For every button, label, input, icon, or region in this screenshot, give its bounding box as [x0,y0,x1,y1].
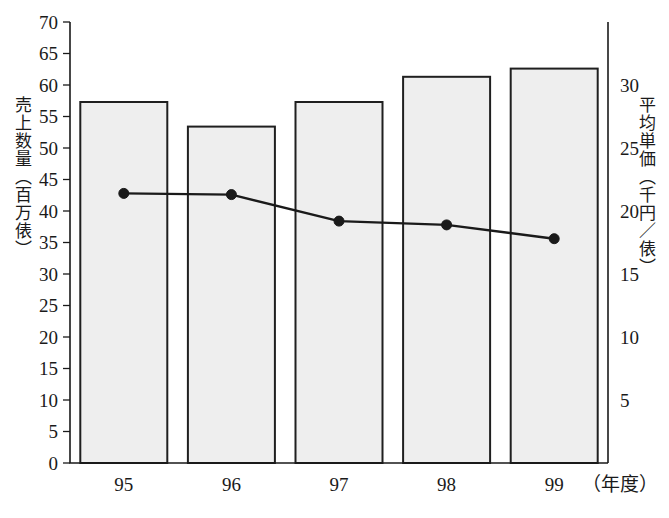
left-tick-label: 20 [39,327,58,348]
category-label-98: 98 [437,474,456,495]
category-label-95: 95 [114,474,133,495]
line-marker-95 [119,188,129,198]
left-tick-label: 45 [39,169,58,190]
left-tick-label: 50 [39,138,58,159]
category-label-96: 96 [222,474,241,495]
line-marker-96 [226,190,236,200]
right-tick-label: 10 [620,327,639,348]
bar-98 [403,77,490,463]
line-marker-98 [442,220,452,230]
right-tick-label: 5 [620,390,630,411]
right-tick-label: 15 [620,264,639,285]
left-tick-label: 55 [39,106,58,127]
left-tick-label: 0 [49,453,59,474]
bar-series-group [80,69,597,463]
left-tick-label: 30 [39,264,58,285]
category-label-99: 99 [545,474,564,495]
x-axis-unit-label: （年度） [582,474,658,495]
left-tick-label: 70 [39,12,58,33]
left-axis-ticks: 0510152025303540455055606570 [39,12,70,474]
chart-plot: 0510152025303540455055606570 51015202530… [0,0,669,518]
right-tick-label: 30 [620,75,639,96]
right-tick-label: 20 [620,201,639,222]
line-marker-99 [549,234,559,244]
right-tick-label: 25 [620,138,639,159]
bar-97 [296,102,383,463]
bar-95 [80,102,167,463]
left-tick-label: 40 [39,201,58,222]
bar-99 [511,69,598,463]
left-tick-label: 35 [39,232,58,253]
left-tick-label: 25 [39,295,58,316]
bar-96 [188,127,275,463]
line-marker-97 [334,216,344,226]
category-labels: 9596979899（年度） [114,474,658,495]
left-tick-label: 60 [39,75,58,96]
right-axis-ticks: 51015202530 [620,75,639,411]
left-tick-label: 5 [49,421,59,442]
category-label-97: 97 [330,474,349,495]
left-tick-label: 10 [39,390,58,411]
left-tick-label: 65 [39,43,58,64]
left-tick-label: 15 [39,358,58,379]
chart-container: 売上数量（百万俵） 平均単価（千円／俵） 0510152025303540455… [0,0,669,518]
